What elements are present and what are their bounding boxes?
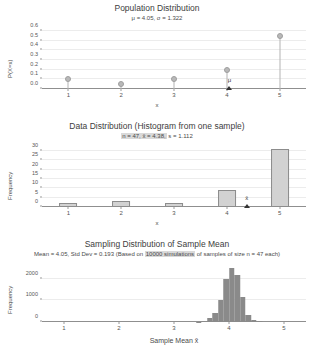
chart1-title: Population Distribution xyxy=(0,0,314,14)
mean-marker-label: μ xyxy=(228,77,231,83)
gridline xyxy=(42,49,306,50)
y-axis-tick-label: 30 xyxy=(32,142,38,148)
subtitle-text: Mean = 4.05, Std Dev = 0.193 (Based on xyxy=(34,251,145,257)
x-axis-tick-label: 1 xyxy=(62,325,65,331)
chart3-xlabel: Sample Mean x̄ xyxy=(42,337,306,344)
stem-point xyxy=(171,76,177,82)
chart3-plot-area: 01000200012345 xyxy=(42,266,306,322)
y-axis-tick-mark xyxy=(40,168,42,169)
gridline xyxy=(42,178,306,179)
x-axis-tick-label: 4 xyxy=(225,92,228,98)
x-axis-tick-label: 5 xyxy=(278,92,281,98)
y-axis-tick-label: 0.1 xyxy=(30,70,38,76)
chart3-title: Sampling Distribution of Sample Mean xyxy=(0,236,314,250)
y-axis-tick-mark xyxy=(40,159,42,160)
sample-mean-marker-label: x̄ xyxy=(245,195,248,201)
gridline xyxy=(42,150,306,151)
x-axis-tick-label: 1 xyxy=(67,92,70,98)
chart2-xlabel: x xyxy=(0,220,314,226)
gridline xyxy=(42,169,306,170)
x-axis-tick-mark xyxy=(121,207,122,209)
stem-line xyxy=(279,36,280,89)
gridline xyxy=(42,30,306,31)
chart2-ylabel: Frequency xyxy=(7,172,13,200)
histogram-bar xyxy=(59,203,77,207)
stem-point xyxy=(224,67,230,73)
subtitle-highlight: 10000 simulations xyxy=(145,251,195,257)
gridline xyxy=(42,278,306,279)
x-axis-tick-mark xyxy=(68,89,69,91)
chart1-subtitle: μ = 4.05, σ = 1.322 xyxy=(0,14,314,23)
y-axis-tick-label: 0.6 xyxy=(30,22,38,28)
gridline xyxy=(42,59,306,60)
x-axis-tick-mark xyxy=(174,322,175,324)
x-axis-tick-mark xyxy=(226,207,227,209)
x-axis-tick-label: 5 xyxy=(282,325,285,331)
y-axis-tick-label: 0.2 xyxy=(30,61,38,67)
x-axis-tick-mark xyxy=(284,322,285,324)
x-axis-tick-mark xyxy=(121,89,122,91)
stem-point xyxy=(65,76,71,82)
y-axis-tick-mark xyxy=(40,206,42,207)
y-axis-tick-mark xyxy=(40,30,42,31)
stem-point xyxy=(277,33,283,39)
x-axis-tick-label: 4 xyxy=(227,325,230,331)
x-axis-tick-label: 3 xyxy=(172,325,175,331)
sample-mean-marker-icon xyxy=(244,204,250,208)
y-axis-tick-mark xyxy=(40,321,42,322)
histogram-bar xyxy=(218,190,236,207)
histogram-bar xyxy=(271,149,289,207)
chart3-subtitle: Mean = 4.05, Std Dev = 0.193 (Based on 1… xyxy=(0,250,314,259)
y-axis-tick-label: 0.0 xyxy=(30,80,38,86)
chart1-plot-area: 0.00.10.20.30.40.50.612345μ xyxy=(42,31,306,89)
chart2-title: Data Distribution (Histogram from one sa… xyxy=(0,118,314,132)
y-axis-tick-mark xyxy=(40,299,42,300)
x-axis-tick-label: 2 xyxy=(120,210,123,216)
histogram-bar xyxy=(112,201,130,207)
y-axis-tick-mark xyxy=(40,196,42,197)
y-axis-tick-label: 5 xyxy=(35,189,38,195)
x-axis-tick-mark xyxy=(174,207,175,209)
gridline xyxy=(42,197,306,198)
gridline xyxy=(42,299,306,300)
data-distribution-panel: Data Distribution (Histogram from one sa… xyxy=(0,118,314,236)
chart1-xlabel: x xyxy=(0,102,314,108)
x-axis-tick-mark xyxy=(68,207,69,209)
y-axis-tick-label: 20 xyxy=(32,161,38,167)
y-axis-tick-mark xyxy=(40,277,42,278)
gridline xyxy=(42,159,306,160)
y-axis-tick-mark xyxy=(40,149,42,150)
x-axis-tick-mark xyxy=(279,89,280,91)
sampling-histogram-bar xyxy=(257,321,263,322)
x-axis-tick-mark xyxy=(174,89,175,91)
x-axis-tick-label: 2 xyxy=(117,325,120,331)
y-axis-tick-mark xyxy=(40,88,42,89)
x-axis-tick-mark xyxy=(279,207,280,209)
y-axis-tick-label: 10 xyxy=(32,179,38,185)
x-axis-tick-label: 2 xyxy=(120,92,123,98)
y-axis-tick-label: 0.3 xyxy=(30,51,38,57)
subtitle-highlight: n = 47, x̄ = 4.38, xyxy=(121,133,166,139)
chart2-plot-area: 05101520253012345x̄ xyxy=(42,149,306,207)
gridline xyxy=(42,187,306,188)
y-axis-tick-mark xyxy=(40,49,42,50)
x-axis-tick-label: 1 xyxy=(67,210,70,216)
y-axis-tick-label: 25 xyxy=(32,151,38,157)
y-axis-tick-mark xyxy=(40,78,42,79)
gridline xyxy=(42,69,306,70)
chart3-ylabel: Frequency xyxy=(7,286,13,314)
chart2-subtitle: n = 47, x̄ = 4.38, s = 1.112 xyxy=(0,132,314,141)
x-axis-tick-label: 3 xyxy=(172,92,175,98)
y-axis-tick-mark xyxy=(40,59,42,60)
y-axis-tick-label: 1000 xyxy=(26,291,38,297)
y-axis-tick-mark xyxy=(40,68,42,69)
y-axis-tick-label: 0 xyxy=(35,313,38,319)
x-axis-tick-mark xyxy=(64,322,65,324)
x-axis-tick-label: 4 xyxy=(225,210,228,216)
chart1-ylabel: P(X=x) xyxy=(7,59,13,78)
sampling-distribution-panel: Sampling Distribution of Sample Mean Mea… xyxy=(0,236,314,353)
y-axis-tick-mark xyxy=(40,177,42,178)
histogram-bar xyxy=(165,203,183,207)
y-axis-tick-label: 0.5 xyxy=(30,32,38,38)
gridline xyxy=(42,40,306,41)
